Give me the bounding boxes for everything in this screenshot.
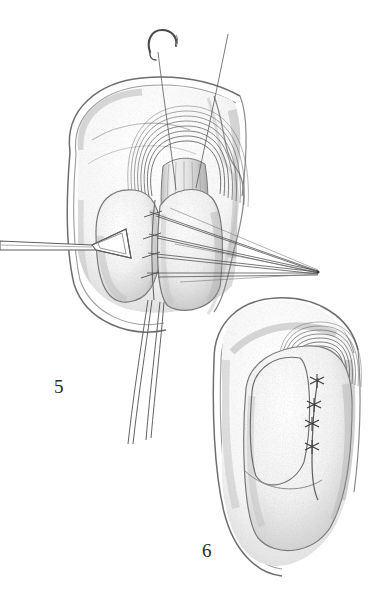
surgical-illustration-plate	[0, 0, 380, 596]
figure-6-label: 6	[202, 541, 212, 560]
figure-5-label: 5	[54, 377, 64, 396]
